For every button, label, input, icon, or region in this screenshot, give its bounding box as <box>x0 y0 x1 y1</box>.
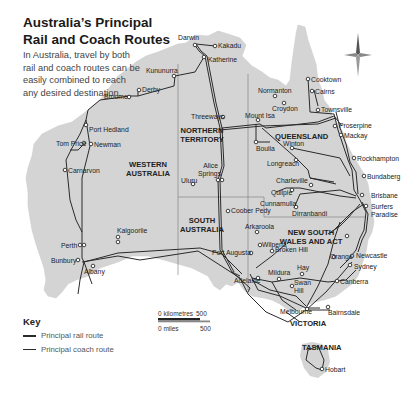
city-brisbane: Brisbane <box>371 192 398 200</box>
region-south-australia: SOUTH AUSTRALIA <box>180 216 224 234</box>
city-surfers-paradise: Surfers Paradise <box>371 203 401 219</box>
city-winton: Winton <box>283 140 304 148</box>
city-proserpine: Proserpine <box>339 122 372 130</box>
city-broken-hill: Broken Hill <box>275 246 308 254</box>
scale-km-value: 500 <box>196 310 207 317</box>
city-port-hedland: Port Hedland <box>89 126 129 134</box>
rail-line-swatch <box>23 335 36 337</box>
key-coach-label: Principal coach route <box>41 345 114 354</box>
key-rail-route: Principal rail route <box>23 331 103 340</box>
region-western-australia: WESTERN AUSTRALIA <box>118 160 178 178</box>
city-carnarvon: Carnarvon <box>68 167 100 175</box>
city-charleville: Charleville <box>276 177 308 185</box>
city-cooktown: Cooktown <box>311 76 341 84</box>
region-northern-territory: NORTHERN TERRITORY <box>180 126 224 144</box>
city-newman: Newman <box>94 141 121 149</box>
map-intro-text: In Australia, travel by both rail and co… <box>23 49 143 99</box>
key-title: Key <box>23 316 40 327</box>
city-quilpie: Quilpie <box>271 189 292 197</box>
key-rail-label: Principal rail route <box>41 331 103 340</box>
city-katherine: Katherine <box>208 56 237 64</box>
city-adelaide: Adelaide <box>234 277 260 285</box>
compass-rose-icon <box>344 33 372 77</box>
city-mildura: Mildura <box>268 269 290 277</box>
city-croydon: Croydon <box>272 105 298 113</box>
scale-mi-value: 500 <box>200 325 211 332</box>
city-hobart: Hobart <box>325 366 345 374</box>
city-coober-pedy: Coober Pedy <box>231 207 271 215</box>
city-bairnsdale: Bairnsdale <box>328 309 360 317</box>
city-melbourne: Melbourne <box>280 308 312 316</box>
map-title: Australia’s Principal Rail and Coach Rou… <box>23 14 173 48</box>
scale-km-label: 0 kilometres <box>158 310 193 317</box>
city-swan-hill: Swan Hill <box>294 279 312 295</box>
city-derby: Derby <box>142 86 160 94</box>
scale-mi-label: 0 miles <box>158 325 179 332</box>
city-townsville: Townsville <box>321 106 352 114</box>
coach-line-swatch <box>23 349 36 350</box>
key-coach-route: Principal coach route <box>23 345 114 354</box>
city-bundaberg: Bundaberg <box>367 173 400 181</box>
region-victoria: VICTORIA <box>290 319 326 328</box>
city-dirranbandi: Dirranbandi <box>292 210 327 218</box>
city-kakadu: Kakadu <box>218 42 241 50</box>
city-normanton: Normanton <box>258 87 292 95</box>
city-uluru: Uluru <box>181 177 197 185</box>
city-arkaroola: Arkaroola <box>245 223 274 231</box>
city-newcastle: Newcastle <box>356 252 387 260</box>
city-perth: Perth <box>61 242 77 250</box>
city-cairns: Cairns <box>315 88 335 96</box>
city-cunnamulla: Cunnamulla <box>260 200 296 208</box>
city-kununurra: Kununurra <box>146 67 178 75</box>
city-darwin: Darwin <box>178 34 199 42</box>
city-canberra: Canberra <box>340 278 368 286</box>
city-longreach: Longreach <box>267 160 299 168</box>
city-threeways: Threeways <box>191 113 224 121</box>
city-mount-isa: Mount Isa <box>245 112 275 120</box>
city-alice-springs: Alice Springs <box>198 162 218 178</box>
city-rockhampton: Rockhampton <box>357 155 399 163</box>
city-bunbury: Bunbury <box>51 257 76 265</box>
city-tom-price: Tom Price <box>56 140 86 148</box>
city-broome: Broome <box>104 93 128 101</box>
city-sydney: Sydney <box>354 263 377 271</box>
city-kalgoorlie: Kalgoorlie <box>117 227 147 235</box>
region-tasmania: TASMANIA <box>302 343 342 352</box>
city-albany: Albany <box>84 268 105 276</box>
city-orange: Orange <box>330 253 353 261</box>
city-hay: Hay <box>297 264 309 272</box>
city-mackay: Mackay <box>344 132 367 140</box>
city-boulia: Boulia <box>256 145 275 153</box>
city-port-augusta: Port Augusta <box>212 249 251 257</box>
scale-bar <box>158 318 210 322</box>
